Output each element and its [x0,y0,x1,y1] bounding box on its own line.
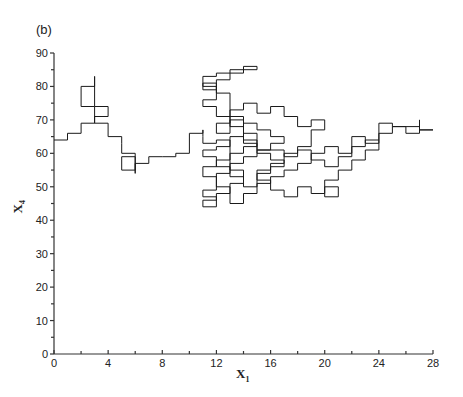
x-tick-label: 24 [373,357,385,369]
y-tick-label: 0 [42,348,48,360]
x-tick-label: 20 [319,357,331,369]
tick-labels: 04812162024280102030405060708090 [36,47,439,369]
y-tick-label: 60 [36,147,48,159]
y-tick-label: 70 [36,114,48,126]
y-tick-label: 90 [36,47,48,59]
x-tick-label: 8 [159,357,165,369]
chart-svg: 04812162024280102030405060708090 [0,0,463,397]
x-axis-label: X1 [236,366,249,384]
y-tick-label: 20 [36,281,48,293]
panel-label: (b) [36,22,52,37]
y-axis-label: X4 [10,200,28,213]
x-tick-label: 16 [264,357,276,369]
y-tick-label: 30 [36,248,48,260]
y-tick-label: 50 [36,181,48,193]
y-tick-label: 80 [36,80,48,92]
x-tick-label: 28 [427,357,439,369]
x-tick-label: 12 [210,357,222,369]
x-tick-label: 0 [51,357,57,369]
trajectory-line [54,66,433,206]
y-tick-label: 10 [36,315,48,327]
x-tick-label: 4 [105,357,111,369]
y-tick-label: 40 [36,214,48,226]
